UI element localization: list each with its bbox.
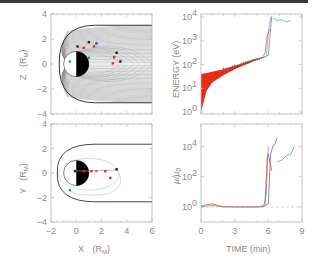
energy-band <box>201 58 263 113</box>
mu-line-ratio-blue <box>263 138 278 207</box>
ytick-label: 2 <box>42 34 47 44</box>
xtick-label: 0 <box>74 226 79 236</box>
ylabel-xy: Y (RM) <box>18 163 29 194</box>
panel-xz-field-lines: −4−2024 Z (RM) <box>18 9 158 119</box>
xtick-label: 3 <box>232 226 237 236</box>
planet-xz <box>64 51 89 76</box>
xtick-label: 0 <box>198 226 203 236</box>
xlabel-time: TIME (min) <box>226 244 271 254</box>
ylabel-mu-sub: 0 <box>175 168 182 172</box>
trajectory-marker <box>90 170 92 172</box>
energy-marker <box>243 62 244 63</box>
figure-canvas: −4−2024 Z (RM) −4−2024−20246 Y (RM) X (R… <box>0 0 320 263</box>
frame-mu <box>201 124 302 222</box>
frame-energy <box>201 14 302 114</box>
ytick-exponent: 2 <box>192 56 197 66</box>
mu-series <box>201 138 302 207</box>
trajectory-marker <box>93 45 95 47</box>
ytick-exponent: 4 <box>192 138 197 148</box>
ylabel-z-close: ) <box>18 49 28 52</box>
energy-marker <box>232 65 233 66</box>
ytick-exponent: 3 <box>192 32 197 42</box>
ytick-label: 10 <box>182 60 192 70</box>
ytick-label: 10 <box>182 142 192 152</box>
xtick-label: 6 <box>266 226 271 236</box>
ytick-label: 10 <box>182 172 192 182</box>
trajectory-marker <box>109 177 111 179</box>
ylabel-mu: μ/μ0 <box>171 168 182 185</box>
energy-marker <box>239 65 240 66</box>
trajectory-marker <box>95 42 97 44</box>
ylabel-y-main: Y <box>18 188 28 194</box>
mu-line-ratio-green <box>277 147 294 162</box>
trajectory-marker <box>69 60 71 62</box>
ytick-exponent: 0 <box>192 103 197 113</box>
ylabel-z-unit: (R <box>18 57 28 67</box>
energy-marker <box>225 68 226 69</box>
ytick-label: 0 <box>42 168 47 178</box>
xtick-label: 2 <box>99 226 104 236</box>
ticks-energy: 100101102103104 <box>182 8 302 117</box>
xtick-label: 6 <box>149 226 154 236</box>
energy-marker <box>223 68 224 69</box>
trajectory-marker <box>83 47 85 49</box>
ytick-exponent: 4 <box>192 8 197 18</box>
ytick-label: 4 <box>42 119 47 129</box>
ytick-label: 10 <box>182 107 192 117</box>
trajectory-marker <box>119 60 121 62</box>
ylabel-y-close: ) <box>18 163 28 166</box>
energy-marker <box>252 59 253 60</box>
ytick-label: 10 <box>182 83 192 93</box>
energy-line-trajectory-gray <box>223 17 270 69</box>
xlabel-xy: X (RM) <box>78 244 110 255</box>
trajectory-marker <box>95 170 97 172</box>
energy-marker <box>248 62 249 63</box>
energy-marker <box>241 63 242 64</box>
trajectory-marker <box>104 170 106 172</box>
trajectory-marker <box>88 41 90 43</box>
mu-line-ratio-gray <box>201 147 268 207</box>
ytick-label: 10 <box>182 202 192 212</box>
energy-marker <box>250 61 251 62</box>
xlabel-x-unit: (R <box>93 244 103 254</box>
trajectory-marker <box>88 57 90 59</box>
energy-marker <box>254 59 255 60</box>
panel-mu-ratio: 1001021040369 μ/μ0 TIME (min) <box>171 124 305 254</box>
trajectory-marker <box>74 170 76 172</box>
ytick-exponent: 2 <box>192 168 197 178</box>
ylabel-mu-main: μ/μ <box>171 172 181 185</box>
energy-marker <box>230 67 231 68</box>
ylabel-y-unit: (R <box>18 171 28 181</box>
ylabel-energy: ENERGY (eV) <box>171 41 181 98</box>
xtick-label: 4 <box>124 226 129 236</box>
ticks-mu: 1001021040369 <box>182 124 305 236</box>
ytick-label: 2 <box>42 144 47 154</box>
xlabel-x-close: ) <box>107 244 110 254</box>
trajectory-marker <box>113 56 115 58</box>
ytick-label: −4 <box>37 109 47 119</box>
ylabel-xz: Z (RM) <box>18 49 29 80</box>
energy-marker <box>257 59 258 60</box>
energy-marker <box>245 62 246 63</box>
panel-xy-trajectories: −4−2024−20246 Y (RM) X (RM) <box>18 119 158 255</box>
trajectory-marker <box>76 45 78 47</box>
ticks-xy: −4−2024−20246 <box>37 119 155 236</box>
xtick-label: −2 <box>46 226 56 236</box>
ytick-label: 10 <box>182 36 192 46</box>
xlabel-x-main: X <box>78 244 84 254</box>
ytick-label: −2 <box>37 84 47 94</box>
trajectory-marker <box>69 189 71 191</box>
ytick-exponent: 1 <box>192 79 197 89</box>
trajectory-marker <box>115 52 117 54</box>
trajectory-marker <box>115 168 117 170</box>
energy-marker <box>227 68 228 69</box>
energy-marker <box>236 65 237 66</box>
ytick-label: 0 <box>42 59 47 69</box>
ytick-exponent: 0 <box>192 198 197 208</box>
panel-energy-vs-time: 100101102103104 ENERGY (eV) <box>171 8 302 117</box>
trajectory-marker <box>83 170 85 172</box>
planet-xy <box>64 160 89 185</box>
energy-marker <box>234 65 235 66</box>
ylabel-z-main: Z <box>18 74 28 80</box>
energy-marker <box>259 59 260 60</box>
